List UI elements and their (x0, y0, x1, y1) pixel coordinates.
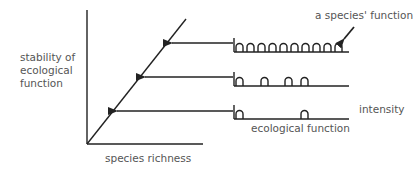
arrows (117, 43, 233, 111)
species-function-pointer (344, 27, 354, 39)
panel-high-richness (234, 38, 349, 52)
y-label-line-1: stability of (20, 51, 75, 64)
y-label-line-3: function (20, 77, 75, 90)
ecological-function-label: ecological function (251, 122, 350, 135)
y-label-line-2: ecological (20, 64, 75, 77)
intensity-label: intensity (359, 103, 405, 116)
x-axis-label: species richness (105, 152, 191, 165)
species-function-label: a species' function (315, 9, 413, 22)
y-axis-label: stability of ecological function (20, 51, 75, 90)
panel-low-richness (234, 105, 349, 119)
trend-line (87, 19, 186, 144)
panel-medium-richness (234, 72, 349, 86)
